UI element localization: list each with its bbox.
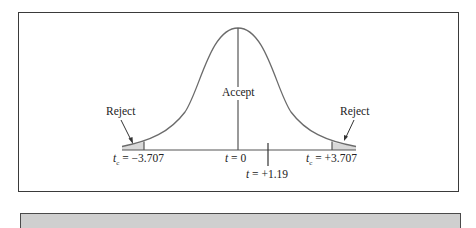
left-reject-arrow [121,120,131,140]
left-arrowhead-icon [129,137,134,144]
right-arrowhead-icon [344,135,348,141]
left-critical-value: = −3.707 [119,152,164,164]
gray-caption-bar [20,213,461,228]
observed-t-value: = +1.19 [249,168,288,180]
accept-label: Accept [221,87,256,99]
left-reject-label: Reject [106,106,135,118]
right-critical-label: tc = +3.707 [306,153,357,167]
right-reject-arrow [346,120,354,137]
left-critical-label: tc = −3.707 [113,153,164,167]
center-value: = 0 [228,152,246,164]
center-label: t = 0 [225,153,246,165]
observed-t-label: t = +1.19 [246,169,288,181]
right-reject-label: Reject [340,106,369,118]
t-distribution-plot [0,0,476,228]
right-critical-value: = +3.707 [312,152,357,164]
